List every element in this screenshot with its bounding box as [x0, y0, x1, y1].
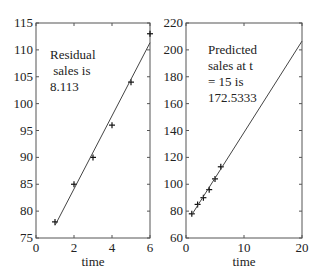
y-tick-label: 105	[14, 69, 34, 84]
y-tick-label: 90	[20, 149, 33, 164]
annotation-text: Predictedsales at t= 15 is172.5333	[208, 42, 258, 105]
y-tick-label: 115	[14, 15, 33, 30]
y-tick-label: 85	[20, 176, 33, 191]
y-tick-label: 220	[164, 15, 184, 30]
y-tick-label: 200	[164, 42, 184, 57]
residual-plot: 02467580859095100105110115timeResidual s…	[14, 15, 154, 269]
data-point-marker	[109, 122, 115, 128]
y-tick-label: 80	[170, 203, 183, 218]
x-axis-label: time	[81, 254, 104, 269]
y-tick-label: 80	[20, 203, 33, 218]
y-tick-label: 120	[164, 149, 184, 164]
x-tick-label: 10	[238, 240, 251, 255]
x-axis-label: time	[232, 254, 255, 269]
x-tick-label: 0	[33, 240, 40, 255]
y-tick-label: 140	[164, 123, 184, 138]
y-tick-label: 60	[170, 230, 183, 245]
y-tick-label: 100	[164, 176, 184, 191]
x-tick-label: 4	[109, 240, 116, 255]
annotation-text: Residual sales is8.113	[50, 47, 96, 94]
data-point-marker	[147, 31, 153, 37]
x-tick-label: 6	[147, 240, 154, 255]
chart-canvas: 02467580859095100105110115timeResidual s…	[0, 0, 321, 278]
y-tick-label: 75	[20, 230, 33, 245]
y-tick-label: 100	[14, 96, 34, 111]
prediction-plot: 010206080100120140160180200220timePredic…	[164, 15, 309, 269]
y-tick-label: 160	[164, 96, 184, 111]
x-tick-label: 0	[183, 240, 190, 255]
y-tick-label: 95	[20, 123, 33, 138]
y-tick-label: 180	[164, 69, 184, 84]
x-tick-label: 2	[71, 240, 78, 255]
y-tick-label: 110	[14, 42, 33, 57]
x-tick-label: 20	[296, 240, 309, 255]
